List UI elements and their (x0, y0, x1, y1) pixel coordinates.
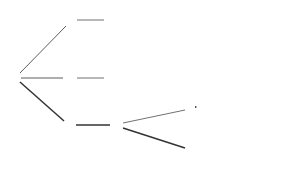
edge-intercept-tm (123, 128, 185, 148)
edge-me-08 (194, 89, 197, 106)
edge-me-high-line (193, 91, 196, 106)
me-high (193, 90, 197, 107)
me-high-branch (194, 90, 197, 106)
edge-me-p08 (194, 92, 196, 107)
edge-me-high-2 (194, 88, 197, 106)
edge-me-high-6 (194, 88, 196, 106)
edge-intercept-me (123, 110, 185, 123)
edge-me-high-final (195, 89, 196, 106)
edge-me-0-8 (194, 91, 197, 106)
decision-tree-diagram (0, 0, 300, 188)
edge-nature-me-high (195, 92, 196, 107)
edge-me-high-5 (194, 88, 196, 107)
edge-me-high-7 (194, 89, 197, 107)
edge-root-turn (20, 82, 64, 121)
edge-me-p-high (195, 88, 196, 106)
edge-me-high-3 (195, 88, 197, 106)
edge-nature-me-high-visible (194, 92, 196, 107)
branch-me-high (194, 90, 196, 106)
edge-root-top (20, 26, 66, 73)
edge-me-to-4149-high (194, 91, 196, 106)
edge-me-high-4 (193, 88, 196, 106)
